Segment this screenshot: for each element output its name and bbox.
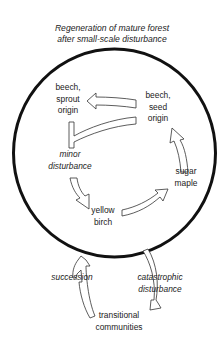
beech-seed-line-3: origin [136, 113, 180, 125]
catastrophic-line-1: catastrophic [124, 272, 196, 284]
arrow-yellow-birch-to-sugar-maple [122, 189, 168, 216]
catastrophic-line-2: disturbance [124, 284, 196, 296]
beech-sprout-line-1: beech, [44, 82, 92, 94]
yellow-birch-line-1: yellow [78, 205, 128, 217]
arrow-seed-to-disturbance-branch [69, 117, 136, 148]
sugar-maple-line-2: maple [164, 178, 208, 190]
label-transitional-communities: transitional communities [84, 310, 154, 333]
arrow-succession [73, 256, 95, 318]
minor-disturbance-line-2: disturbance [42, 161, 98, 173]
node-sugar-maple: sugar maple [164, 166, 208, 189]
succession-text: succession [42, 272, 102, 284]
node-yellow-birch: yellow birch [78, 205, 128, 228]
node-beech-seed-origin: beech, seed origin [136, 90, 180, 125]
beech-seed-line-2: seed [136, 102, 180, 114]
sugar-maple-line-1: sugar [164, 166, 208, 178]
transitional-line-2: communities [84, 322, 154, 334]
node-beech-sprout-origin: beech, sprout origin [44, 82, 92, 117]
label-minor-disturbance: minor disturbance [42, 149, 98, 172]
arrow-seed-to-sprout [87, 93, 136, 109]
transitional-line-1: transitional [84, 310, 154, 322]
beech-seed-line-1: beech, [136, 90, 180, 102]
yellow-birch-line-2: birch [78, 217, 128, 229]
beech-sprout-line-3: origin [44, 105, 92, 117]
label-catastrophic-disturbance: catastrophic disturbance [124, 272, 196, 295]
beech-sprout-line-2: sprout [44, 94, 92, 106]
label-succession: succession [42, 272, 102, 284]
minor-disturbance-line-1: minor [42, 149, 98, 161]
